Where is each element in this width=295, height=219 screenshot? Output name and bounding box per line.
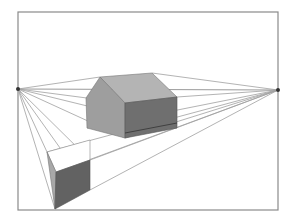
house-shape	[86, 73, 177, 138]
right-vanishing-point	[276, 88, 280, 92]
perspective-canvas	[0, 0, 295, 219]
perspective-diagram: Two-point perspective drawing	[0, 0, 295, 219]
box-shape	[47, 140, 90, 209]
left-vanishing-point	[16, 87, 20, 91]
